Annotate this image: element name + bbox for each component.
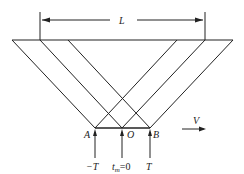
time-T-label: T xyxy=(146,161,153,172)
point-O-label: O xyxy=(127,129,134,140)
velocity-label: V xyxy=(193,115,201,126)
line-1 xyxy=(12,40,95,128)
time-minus-T-label: −T xyxy=(86,161,100,172)
point-A-label: A xyxy=(83,129,91,140)
line-4 xyxy=(95,40,177,128)
point-B-label: B xyxy=(153,129,159,140)
diagram: L V A O B −T tm=0 T xyxy=(0,0,244,174)
line-6 xyxy=(150,40,233,128)
time-tm-label: tm=0 xyxy=(112,161,130,174)
diagram-svg: L V A O B −T tm=0 T xyxy=(0,0,244,174)
line-3 xyxy=(68,40,150,128)
length-label: L xyxy=(118,15,125,26)
line-2 xyxy=(40,40,122,128)
